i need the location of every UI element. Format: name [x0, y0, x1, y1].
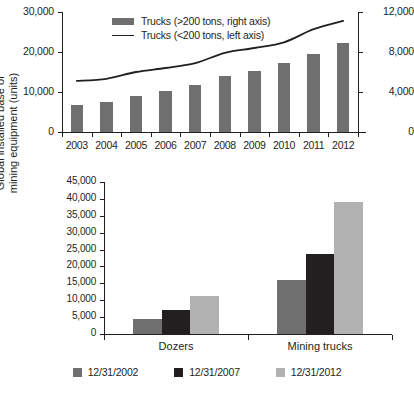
x-axis-year-label: 2012 [325, 139, 361, 151]
y-axis-tick [100, 250, 104, 251]
y-axis-tick [100, 182, 104, 183]
bar [133, 319, 162, 334]
left-axis-line [62, 12, 63, 132]
color-swatch-icon [73, 368, 82, 377]
y-axis-tick-label: 25,000 [48, 243, 96, 254]
x-axis-line [62, 132, 366, 133]
bar [162, 310, 191, 334]
x-axis-tick [358, 133, 359, 137]
legend-label: Trucks (>200 tons, right axis) [141, 15, 270, 27]
x-axis-tick [299, 133, 300, 137]
y-axis-tick-label: 30,000 [48, 226, 96, 237]
x-axis-tick [180, 133, 181, 137]
x-axis-tick [62, 133, 63, 137]
y-axis-tick-label: 5,000 [48, 310, 96, 321]
bar [248, 71, 260, 133]
x-axis-tick [328, 133, 329, 137]
bar [130, 96, 142, 132]
left-axis-tick [58, 92, 62, 93]
legend-label: Trucks (<200 tons, left axis) [141, 29, 264, 41]
left-axis-tick-label: 30,000 [0, 5, 54, 17]
y-axis-title: Global installed base of mining equipmen… [0, 48, 20, 218]
right-axis-tick [359, 12, 363, 13]
bar [190, 296, 219, 334]
top-chart-legend: Trucks (>200 tons, right axis) Trucks (<… [112, 14, 270, 42]
x-axis-tick [121, 133, 122, 137]
y-axis-tick-label: 40,000 [48, 192, 96, 203]
y-axis-tick-label: 35,000 [48, 209, 96, 220]
legend-item-2012: 12/31/2012 [276, 366, 342, 378]
color-swatch-icon [276, 368, 285, 377]
y-axis-tick-label: 15,000 [48, 276, 96, 287]
left-axis-tick [58, 52, 62, 53]
bottom-chart-legend: 12/31/2002 12/31/2007 12/31/2012 [0, 366, 414, 378]
bar [100, 102, 112, 133]
right-axis-tick-label: 12,000 [366, 5, 414, 17]
bar [159, 91, 171, 132]
legend-item-2002: 12/31/2002 [73, 366, 139, 378]
y-axis-tick [100, 283, 104, 284]
legend-item-trucks-under-200: Trucks (<200 tons, left axis) [112, 28, 270, 42]
y-axis-tick-label: 20,000 [48, 259, 96, 270]
y-axis-tick [100, 300, 104, 301]
x-axis-tick [104, 335, 105, 340]
bar [219, 76, 231, 132]
right-axis-tick-label: 4,000 [366, 85, 414, 97]
legend-label: 12/31/2012 [291, 366, 342, 378]
color-swatch-icon [174, 368, 183, 377]
right-axis-tick [359, 132, 363, 133]
y-axis-tick [100, 216, 104, 217]
left-axis-tick [58, 12, 62, 13]
y-axis-tick [100, 317, 104, 318]
right-axis-line [358, 12, 359, 132]
y-axis-tick-label: 45,000 [48, 175, 96, 186]
x-axis-category-label: Mining trucks [260, 340, 380, 352]
right-axis-tick-label: 8,000 [366, 45, 414, 57]
bar [71, 105, 83, 132]
x-axis-tick [248, 335, 249, 340]
bar [306, 254, 335, 334]
y-axis-line [104, 182, 105, 334]
x-axis-tick [240, 133, 241, 137]
x-axis-tick [151, 133, 152, 137]
right-axis-tick-label: 0 [366, 125, 414, 137]
x-axis-tick [392, 335, 393, 340]
bar [278, 63, 290, 133]
x-axis-tick [92, 133, 93, 137]
y-axis-tick [100, 233, 104, 234]
legend-label: 12/31/2007 [189, 366, 240, 378]
x-axis-category-label: Dozers [116, 340, 236, 352]
right-axis-tick [359, 52, 363, 53]
y-axis-title-line2: mining equipment (units) [7, 48, 20, 218]
y-axis-tick [100, 266, 104, 267]
y-axis-tick [100, 199, 104, 200]
bar [307, 54, 319, 133]
bar [337, 43, 349, 133]
right-axis-tick [359, 92, 363, 93]
y-axis-title-line1: Global installed base of [0, 48, 7, 218]
y-axis-tick-label: 10,000 [48, 293, 96, 304]
x-axis-tick [269, 133, 270, 137]
line-swatch-icon [112, 35, 134, 36]
legend-label: 12/31/2002 [88, 366, 139, 378]
legend-item-2007: 12/31/2007 [174, 366, 240, 378]
x-axis-tick [210, 133, 211, 137]
bar [334, 202, 363, 334]
legend-item-trucks-over-200: Trucks (>200 tons, right axis) [112, 14, 270, 28]
installed-base-grouped-bar-chart: Global installed base of mining equipmen… [0, 162, 414, 393]
bar-swatch-icon [112, 18, 134, 25]
bar [189, 85, 201, 133]
bar [277, 280, 306, 334]
y-axis-tick-label: 0 [48, 327, 96, 338]
trucks-dual-axis-chart: Trucks (>200 tons, right axis) Trucks (<… [0, 0, 414, 162]
